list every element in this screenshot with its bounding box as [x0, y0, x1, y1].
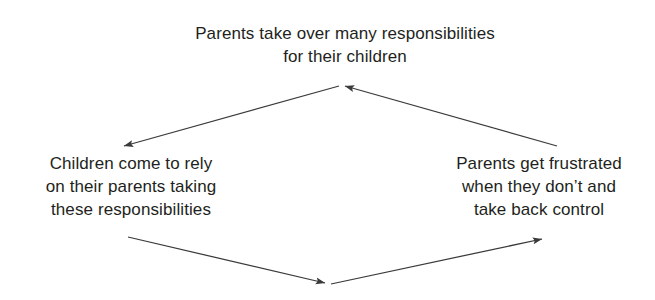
node-children-rely-line-1: Children come to rely — [22, 152, 240, 175]
node-parents-take-over: Parents take over many responsibilities … — [150, 22, 540, 68]
node-parents-frustrated: Parents get frustrated when they don’t a… — [432, 152, 646, 221]
node-parents-frustrated-line-1: Parents get frustrated — [432, 152, 646, 175]
arrow-right-to-top — [345, 86, 557, 146]
node-parents-take-over-line-2: for their children — [150, 45, 540, 68]
cycle-diagram-canvas: Parents take over many responsibilities … — [0, 0, 655, 300]
node-parents-frustrated-line-3: take back control — [432, 198, 646, 221]
node-children-rely-line-2: on their parents taking — [22, 175, 240, 198]
arrow-top-to-left — [124, 86, 339, 146]
arrow-left-to-bottom — [128, 237, 325, 283]
node-children-rely: Children come to rely on their parents t… — [22, 152, 240, 221]
node-parents-take-over-line-1: Parents take over many responsibilities — [150, 22, 540, 45]
node-parents-frustrated-line-2: when they don’t and — [432, 175, 646, 198]
node-children-rely-line-3: these responsibilities — [22, 198, 240, 221]
arrow-bottom-to-right — [331, 239, 542, 284]
